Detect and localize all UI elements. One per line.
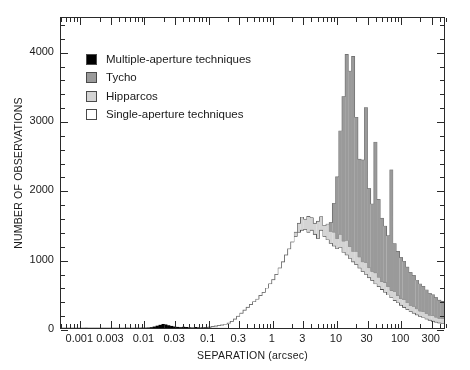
x-axis-minor-tick: [70, 18, 71, 22]
x-axis-minor-tick: [356, 18, 357, 22]
x-axis-minor-tick: [144, 324, 145, 328]
y-axis-tick: [437, 261, 444, 262]
legend-item: Single-aperture techniques: [86, 106, 251, 125]
x-axis-minor-tick: [391, 18, 392, 22]
x-axis-minor-tick: [138, 324, 139, 328]
x-axis-minor-tick: [175, 18, 176, 22]
x-axis-minor-tick: [119, 18, 120, 22]
x-axis-minor-tick: [267, 18, 268, 22]
x-axis-minor-tick: [135, 18, 136, 22]
x-axis-minor-tick: [382, 18, 383, 22]
x-axis-minor-tick: [239, 18, 240, 22]
y-axis-minor-tick: [61, 275, 65, 276]
legend-label: Single-aperture techniques: [106, 109, 243, 121]
y-axis-tick-label: 4000: [10, 46, 54, 57]
x-axis-minor-tick: [202, 324, 203, 328]
x-axis-minor-tick: [387, 324, 388, 328]
x-axis-minor-tick: [247, 18, 248, 22]
x-axis-minor-tick: [327, 18, 328, 22]
x-axis-minor-tick: [395, 18, 396, 22]
x-axis-minor-tick: [74, 324, 75, 328]
x-axis-minor-tick: [111, 324, 112, 328]
x-axis-minor-tick: [164, 324, 165, 328]
x-axis-minor-tick: [263, 18, 264, 22]
x-axis-minor-tick: [337, 324, 338, 328]
x-axis-minor-tick: [311, 18, 312, 22]
x-axis-minor-tick: [331, 18, 332, 22]
x-axis-minor-tick: [209, 18, 210, 22]
y-axis-tick-label: 3000: [10, 115, 54, 126]
x-axis-minor-tick: [446, 324, 447, 328]
legend-swatch-icon: [86, 109, 97, 120]
x-axis-minor-tick: [209, 324, 210, 328]
x-axis-minor-tick: [74, 18, 75, 22]
x-axis-minor-tick: [318, 18, 319, 22]
x-axis-minor-tick: [273, 324, 274, 328]
x-axis-minor-tick: [202, 18, 203, 22]
x-axis-minor-tick: [432, 18, 433, 22]
legend-label: Multiple-aperture techniques: [106, 54, 251, 66]
x-axis-minor-tick: [420, 18, 421, 22]
x-axis-minor-tick: [77, 324, 78, 328]
y-axis-minor-tick: [61, 39, 65, 40]
x-axis-minor-tick: [292, 324, 293, 328]
y-axis-title: NUMBER OF OBSERVATIONS: [12, 17, 28, 329]
x-axis-minor-tick: [446, 18, 447, 22]
x-axis-minor-tick: [183, 18, 184, 22]
y-axis-minor-tick: [61, 94, 65, 95]
y-axis-tick: [437, 53, 444, 54]
y-axis-minor-tick: [61, 177, 65, 178]
y-axis-minor-tick: [440, 67, 444, 68]
y-axis-minor-tick: [440, 150, 444, 151]
y-axis-minor-tick: [440, 25, 444, 26]
x-axis-minor-tick: [80, 18, 81, 22]
x-axis-minor-tick: [77, 18, 78, 22]
y-axis-minor-tick: [61, 80, 65, 81]
x-axis-minor-tick: [183, 324, 184, 328]
x-axis-minor-tick: [119, 324, 120, 328]
y-axis-minor-tick: [61, 205, 65, 206]
x-axis-minor-tick: [398, 18, 399, 22]
x-axis-minor-tick: [61, 18, 62, 22]
x-axis-minor-tick: [391, 324, 392, 328]
x-axis-minor-tick: [382, 324, 383, 328]
x-axis-minor-tick: [337, 18, 338, 22]
legend-label: Tycho: [106, 72, 137, 84]
y-axis-tick: [61, 330, 68, 331]
x-axis-minor-tick: [273, 18, 274, 22]
x-axis-minor-tick: [70, 324, 71, 328]
x-axis-minor-tick: [420, 324, 421, 328]
x-axis-minor-tick: [259, 324, 260, 328]
y-axis-minor-tick: [440, 177, 444, 178]
x-axis-minor-tick: [66, 18, 67, 22]
x-axis-minor-tick: [311, 324, 312, 328]
legend-label: Hipparcos: [106, 91, 158, 103]
x-axis-minor-tick: [66, 324, 67, 328]
legend-item: Multiple-aperture techniques: [86, 50, 251, 69]
y-axis-tick-label: 1000: [10, 254, 54, 265]
y-axis-minor-tick: [61, 136, 65, 137]
x-axis-minor-tick: [135, 324, 136, 328]
x-axis-minor-tick: [368, 324, 369, 328]
x-axis-minor-tick: [189, 324, 190, 328]
x-axis-minor-tick: [228, 324, 229, 328]
x-axis-minor-tick: [334, 324, 335, 328]
x-axis-minor-tick: [401, 324, 402, 328]
x-axis-minor-tick: [164, 18, 165, 22]
x-axis-minor-tick: [323, 324, 324, 328]
x-axis-minor-tick: [254, 324, 255, 328]
x-axis-minor-tick: [270, 18, 271, 22]
y-axis-tick: [61, 191, 68, 192]
x-axis-minor-tick: [175, 324, 176, 328]
legend: Multiple-aperture techniquesTychoHipparc…: [86, 50, 251, 124]
x-axis-minor-tick: [100, 18, 101, 22]
y-axis-tick: [437, 122, 444, 123]
y-axis-minor-tick: [61, 233, 65, 234]
x-axis-minor-tick: [80, 324, 81, 328]
x-axis-minor-tick: [376, 324, 377, 328]
x-axis-minor-tick: [228, 18, 229, 22]
y-axis-minor-tick: [440, 108, 444, 109]
y-axis-minor-tick: [61, 164, 65, 165]
y-axis-minor-tick: [440, 39, 444, 40]
y-axis-minor-tick: [440, 233, 444, 234]
